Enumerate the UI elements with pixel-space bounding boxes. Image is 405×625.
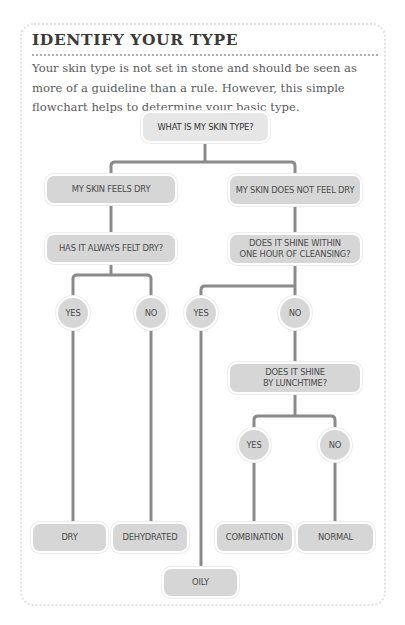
answer-no-label: NO bbox=[145, 308, 157, 318]
root-question-node: WHAT IS MY SKIN TYPE? bbox=[143, 113, 268, 141]
skin-feels-dry-label: MY SKIN FEELS DRY bbox=[72, 184, 151, 195]
always-felt-dry-node: HAS IT ALWAYS FELT DRY? bbox=[47, 235, 175, 262]
result-normal: NORMAL bbox=[298, 524, 373, 551]
shine-within-hour-node: DOES IT SHINE WITHIN ONE HOUR OF CLEANSI… bbox=[230, 235, 360, 263]
connector-lunchtime-fork bbox=[254, 392, 335, 430]
answer-yes-label: YES bbox=[65, 308, 80, 318]
shine-by-lunchtime-label: DOES IT SHINE BY LUNCHTIME? bbox=[263, 367, 327, 389]
connector-root-fork bbox=[111, 162, 295, 176]
result-dry-label: DRY bbox=[61, 532, 77, 543]
answer-yes-shine-hour: YES bbox=[186, 298, 216, 328]
root-question-label: WHAT IS MY SKIN TYPE? bbox=[158, 122, 254, 133]
result-combination: COMBINATION bbox=[217, 524, 292, 551]
answer-yes-label: YES bbox=[246, 440, 261, 450]
answer-no-label: NO bbox=[289, 308, 301, 318]
answer-no-always-dry: NO bbox=[136, 298, 166, 328]
answer-no-label: NO bbox=[329, 440, 341, 450]
result-dehydrated-label: DEHYDRATED bbox=[122, 532, 177, 543]
skin-not-dry-label: MY SKIN DOES NOT FEEL DRY bbox=[236, 185, 355, 196]
shine-by-lunchtime-node: DOES IT SHINE BY LUNCHTIME? bbox=[230, 364, 360, 392]
connector-dry-fork bbox=[73, 262, 151, 298]
answer-yes-lunchtime: YES bbox=[239, 430, 269, 460]
answer-no-lunchtime: NO bbox=[320, 430, 350, 460]
result-oily: OILY bbox=[164, 569, 237, 596]
skin-not-dry-node: MY SKIN DOES NOT FEEL DRY bbox=[230, 176, 360, 204]
skin-feels-dry-node: MY SKIN FEELS DRY bbox=[47, 176, 175, 203]
result-dry: DRY bbox=[33, 524, 106, 551]
connector-shine-fork bbox=[201, 263, 295, 298]
result-oily-label: OILY bbox=[192, 577, 209, 588]
result-dehydrated: DEHYDRATED bbox=[113, 524, 187, 551]
result-combination-label: COMBINATION bbox=[226, 532, 283, 543]
shine-within-hour-label: DOES IT SHINE WITHIN ONE HOUR OF CLEANSI… bbox=[240, 238, 351, 260]
always-felt-dry-label: HAS IT ALWAYS FELT DRY? bbox=[59, 243, 163, 254]
answer-no-shine-hour: NO bbox=[280, 298, 310, 328]
result-normal-label: NORMAL bbox=[318, 532, 353, 543]
answer-yes-label: YES bbox=[193, 308, 208, 318]
answer-yes-always-dry: YES bbox=[58, 298, 88, 328]
